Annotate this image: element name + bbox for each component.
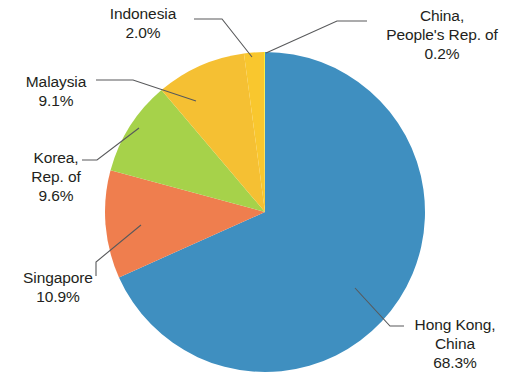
slice-label-indonesia-name: Indonesia (82, 4, 204, 23)
slice-label-singapore-percent: 10.9% (2, 287, 114, 306)
slice-label-malaysia-percent: 9.1% (2, 91, 110, 110)
slice-label-korea-name-line1: Korea, (2, 148, 110, 167)
slice-label-korea-name-line2: Rep. of (2, 167, 110, 186)
pie-slice-group (105, 52, 425, 372)
slice-label-malaysia-name: Malaysia (2, 72, 110, 91)
leader-line-china (266, 21, 367, 53)
slice-label-china-percent: 0.2% (372, 44, 512, 63)
slice-label-hongkong-percent: 68.3% (398, 353, 512, 372)
slice-label-china-name-line1: China, (372, 6, 512, 25)
slice-label-hongkong-name-line1: Hong Kong, (398, 315, 512, 334)
slice-label-malaysia: Malaysia 9.1% (2, 72, 110, 110)
slice-label-singapore-name: Singapore (2, 268, 114, 287)
slice-label-indonesia: Indonesia 2.0% (82, 4, 204, 42)
pie-chart-figure: Indonesia 2.0% China, People's Rep. of 0… (0, 0, 514, 385)
slice-label-korea: Korea, Rep. of 9.6% (2, 148, 110, 205)
slice-label-hongkong-name-line2: China (398, 334, 512, 353)
slice-label-indonesia-percent: 2.0% (82, 23, 204, 42)
slice-label-china-name-line2: People's Rep. of (372, 25, 512, 44)
slice-label-singapore: Singapore 10.9% (2, 268, 114, 306)
slice-label-korea-percent: 9.6% (2, 186, 110, 205)
slice-label-china: China, People's Rep. of 0.2% (372, 6, 512, 63)
slice-label-hongkong: Hong Kong, China 68.3% (398, 315, 512, 372)
